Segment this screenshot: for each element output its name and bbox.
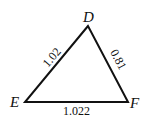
vertex-label-e: E xyxy=(9,94,19,110)
triangle-diagram: D E F 1.02 0.81 1.022 xyxy=(0,0,148,128)
triangle-def xyxy=(25,26,128,102)
side-label-ef: 1.022 xyxy=(63,104,90,118)
vertex-label-f: F xyxy=(129,95,140,111)
side-label-de: 1.02 xyxy=(40,45,64,70)
vertex-label-d: D xyxy=(82,9,94,25)
